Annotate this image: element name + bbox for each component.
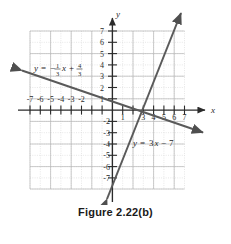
x-tick-label: 6	[172, 113, 176, 122]
y-axis-label: y	[115, 9, 120, 19]
x-tick-label: -6	[37, 95, 44, 104]
x-axis-label: x	[210, 105, 215, 115]
y-tick-labels-positive: 7 6 5 4 3 2 1	[100, 27, 104, 104]
y-tick-label: 4	[100, 61, 104, 70]
eq1-equals: =	[41, 63, 46, 73]
y-tick-label: -7	[103, 174, 110, 183]
eq1-y: y	[33, 63, 38, 73]
figure-container: -7 -6 -5 -4 -3 -2 1 3 4 5 6 7 7 6 5	[0, 0, 231, 244]
equation-label-line1: y = − 1 3 x + 4 3	[33, 62, 83, 77]
eq1-minus: −	[50, 63, 55, 73]
coordinate-plane: -7 -6 -5 -4 -3 -2 1 3 4 5 6 7 7 6 5	[0, 0, 231, 205]
eq2-minus: −	[161, 138, 166, 148]
y-tick-labels-negative: -2 -3 -4 -5 -6 -7	[103, 117, 110, 182]
x-tick-labels-positive: 1 3 4 5 6 7	[121, 113, 187, 122]
y-tick-label: 6	[100, 38, 104, 47]
x-tick-label: 1	[121, 113, 125, 122]
y-tick-label: -5	[103, 151, 110, 160]
axis-lines	[18, 18, 205, 202]
eq1-num1: 1	[56, 62, 59, 69]
eq2-coef: 3	[149, 138, 154, 148]
eq1-plus: +	[69, 63, 74, 73]
x-tick-label: -2	[78, 95, 85, 104]
x-tick-label: 7	[183, 113, 187, 122]
x-tick-label: -3	[68, 95, 75, 104]
x-tick-label: -4	[58, 95, 65, 104]
x-tick-label: -7	[27, 95, 34, 104]
eq2-const: 7	[169, 138, 174, 148]
x-tick-label: 3	[141, 113, 145, 122]
eq1-den2: 3	[78, 70, 81, 77]
line-steep	[107, 13, 181, 199]
y-tick-label: -2	[103, 117, 110, 126]
y-tick-label: 7	[100, 27, 104, 36]
x-tick-label: -5	[47, 95, 54, 104]
x-tick-labels-negative: -7 -6 -5 -4 -3 -2	[27, 95, 85, 104]
y-tick-label: -6	[103, 163, 110, 172]
y-tick-label: 5	[100, 50, 104, 59]
y-tick-label: 2	[100, 84, 104, 93]
y-tick-label: -4	[103, 140, 110, 149]
graph-svg: -7 -6 -5 -4 -3 -2 1 3 4 5 6 7 7 6 5	[0, 0, 231, 205]
equation-label-line2: y = 3 x − 7	[132, 138, 174, 148]
y-tick-label: -3	[103, 129, 110, 138]
y-tick-label: 3	[100, 72, 104, 81]
x-tick-label: 5	[162, 113, 166, 122]
eq2-x: x	[154, 138, 159, 148]
figure-caption: Figure 2.22(b)	[0, 206, 231, 218]
eq2-equals: =	[140, 138, 145, 148]
eq1-x: x	[61, 63, 66, 73]
eq1-den1: 3	[56, 70, 59, 77]
eq2-y: y	[132, 138, 137, 148]
